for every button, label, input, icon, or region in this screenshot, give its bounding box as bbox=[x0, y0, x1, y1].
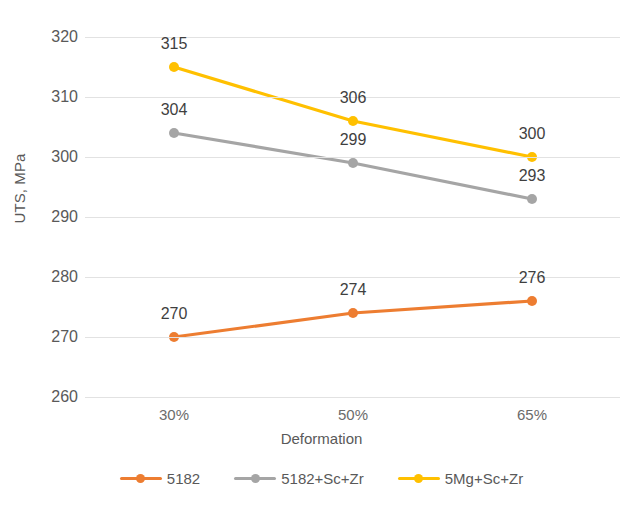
y-tick-label: 310 bbox=[32, 88, 78, 106]
data-label: 293 bbox=[519, 167, 546, 185]
y-tick-label: 300 bbox=[32, 148, 78, 166]
legend-label: 5182+Sc+Zr bbox=[281, 470, 364, 487]
legend-label: 5Mg+Sc+Zr bbox=[445, 470, 523, 487]
chart-legend: 51825182+Sc+Zr5Mg+Sc+Zr bbox=[0, 470, 643, 487]
y-tick-label: 270 bbox=[32, 328, 78, 346]
gridline bbox=[85, 157, 620, 158]
data-point-marker bbox=[527, 194, 537, 204]
x-axis-title: Deformation bbox=[0, 430, 643, 447]
data-label: 276 bbox=[519, 269, 546, 287]
data-point-marker bbox=[348, 308, 358, 318]
y-tick-label: 260 bbox=[32, 388, 78, 406]
y-tick-label: 320 bbox=[32, 28, 78, 46]
legend-marker-icon bbox=[234, 473, 276, 485]
series-line bbox=[174, 301, 532, 337]
data-label: 300 bbox=[519, 125, 546, 143]
gridline bbox=[85, 217, 620, 218]
legend-item[interactable]: 5182+Sc+Zr bbox=[234, 470, 364, 487]
line-chart: UTS, MPa 320310300290280270260 270274276… bbox=[0, 0, 643, 505]
data-label: 274 bbox=[340, 281, 367, 299]
data-label: 304 bbox=[161, 101, 188, 119]
data-label: 306 bbox=[340, 89, 367, 107]
data-label: 315 bbox=[161, 35, 188, 53]
y-tick-label: 280 bbox=[32, 268, 78, 286]
legend-marker-icon bbox=[120, 473, 162, 485]
x-tick-label: 65% bbox=[517, 406, 547, 423]
data-point-marker bbox=[169, 62, 179, 72]
gridline bbox=[85, 337, 620, 338]
legend-label: 5182 bbox=[167, 470, 200, 487]
legend-marker-icon bbox=[398, 473, 440, 485]
legend-item[interactable]: 5Mg+Sc+Zr bbox=[398, 470, 523, 487]
plot-area: 270274276304299293315306300 bbox=[85, 37, 620, 397]
data-point-marker bbox=[348, 116, 358, 126]
data-point-marker bbox=[527, 296, 537, 306]
x-tick-label: 30% bbox=[159, 406, 189, 423]
data-label: 299 bbox=[340, 131, 367, 149]
gridline bbox=[85, 397, 620, 398]
data-point-marker bbox=[169, 128, 179, 138]
data-label: 270 bbox=[161, 305, 188, 323]
data-point-marker bbox=[348, 158, 358, 168]
y-tick-label: 290 bbox=[32, 208, 78, 226]
legend-item[interactable]: 5182 bbox=[120, 470, 200, 487]
x-tick-label: 50% bbox=[338, 406, 368, 423]
